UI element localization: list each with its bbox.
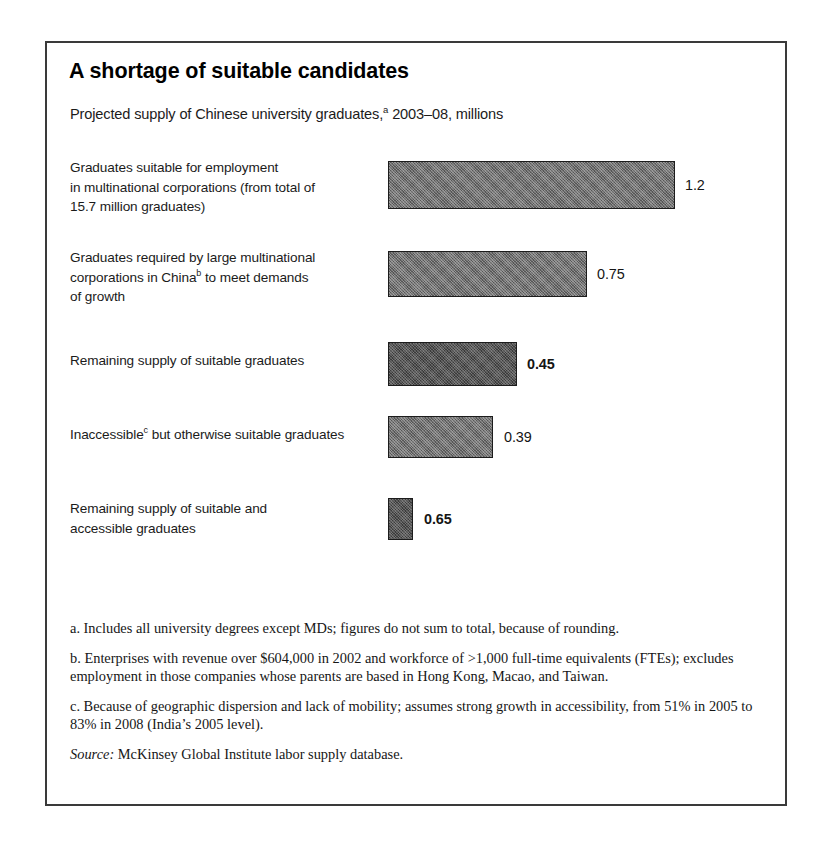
bar-graduates-suitable-for-employment xyxy=(388,161,675,209)
bar-value-label: 1.2 xyxy=(685,177,705,193)
bar-row: Graduates suitable for employment in mul… xyxy=(47,158,785,230)
bar-row: Remaining supply of suitable graduates 0… xyxy=(47,342,785,394)
bar-label: Inaccessiblec but otherwise suitable gra… xyxy=(70,425,410,445)
footnote-a: a. Includes all university degrees excep… xyxy=(70,619,770,638)
bar-label-line: Remaining supply of suitable graduates xyxy=(70,353,304,368)
bar-label: Graduates required by large multinationa… xyxy=(70,248,400,307)
bar-track: 1.2 xyxy=(388,161,785,209)
footnotes-block: a. Includes all university degrees excep… xyxy=(70,619,770,764)
bar-label-line: Graduates required by large multinationa… xyxy=(70,250,315,265)
bar-remaining-supply-suitable-accessible xyxy=(388,498,413,540)
bar-remaining-supply-suitable xyxy=(388,342,517,386)
exhibit-frame: A shortage of suitable candidates Projec… xyxy=(45,41,787,806)
bar-value-label: 0.45 xyxy=(527,356,555,372)
source-label: Source: xyxy=(70,746,114,762)
bar-label-line: corporations in China xyxy=(70,270,196,285)
bar-label-line: Inaccessible xyxy=(70,427,144,442)
bar-value-label: 0.39 xyxy=(504,429,532,445)
bar-track: 0.45 xyxy=(388,342,785,386)
bar-label-line: Graduates suitable for employment xyxy=(70,160,278,175)
footnote-b: b. Enterprises with revenue over $604,00… xyxy=(70,649,770,686)
chart-subtitle-text-after: 2003–08, millions xyxy=(388,106,503,122)
bar-label-line-cont: to meet demands xyxy=(201,270,308,285)
bar-label: Remaining supply of suitable and accessi… xyxy=(70,499,400,538)
bar-row: Inaccessiblec but otherwise suitable gra… xyxy=(47,416,785,466)
bar-label-line: 15.7 million graduates) xyxy=(70,199,205,214)
bar-label-line: of growth xyxy=(70,289,125,304)
footnote-c: c. Because of geographic dispersion and … xyxy=(70,697,770,734)
bar-label-line: in multinational corporations (from tota… xyxy=(70,180,315,195)
bar-chart-plot-area: Graduates suitable for employment in mul… xyxy=(47,158,785,598)
bar-track: 0.65 xyxy=(388,498,785,540)
bar-track: 0.75 xyxy=(388,251,785,297)
bar-row: Remaining supply of suitable and accessi… xyxy=(47,496,785,552)
source-text: McKinsey Global Institute labor supply d… xyxy=(114,746,403,762)
chart-subtitle: Projected supply of Chinese university g… xyxy=(70,106,503,122)
chart-subtitle-text-before: Projected supply of Chinese university g… xyxy=(70,106,383,122)
bar-row: Graduates required by large multinationa… xyxy=(47,248,785,320)
bar-label: Remaining supply of suitable graduates xyxy=(70,351,400,371)
bar-value-label: 0.75 xyxy=(597,266,625,282)
chart-title: A shortage of suitable candidates xyxy=(69,59,409,84)
bar-label: Graduates suitable for employment in mul… xyxy=(70,158,400,217)
bar-inaccessible-but-suitable xyxy=(388,416,493,458)
bar-label-line: accessible graduates xyxy=(70,521,196,536)
bar-graduates-required-by-corporations xyxy=(388,251,587,297)
bar-value-label: 0.65 xyxy=(424,511,452,527)
bar-label-line-cont: but otherwise suitable graduates xyxy=(148,427,344,442)
bar-label-line: Remaining supply of suitable and xyxy=(70,501,267,516)
bar-track: 0.39 xyxy=(388,416,785,458)
source-note: Source: McKinsey Global Institute labor … xyxy=(70,745,770,764)
